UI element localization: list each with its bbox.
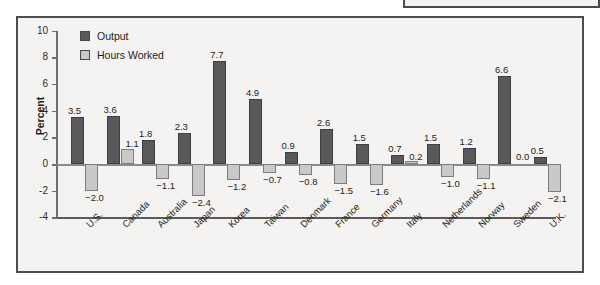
y-tick-label: -2 (20, 185, 48, 196)
bar-value-label: 4.9 (238, 87, 268, 98)
bar-value-label: −1.1 (151, 180, 181, 191)
bar-value-label: −1.6 (364, 186, 394, 197)
y-tick-label: -4 (20, 211, 48, 222)
bar-hours[interactable] (85, 164, 98, 191)
bar-hours[interactable] (299, 164, 312, 175)
bar-output[interactable] (463, 148, 476, 164)
bar-output[interactable] (534, 157, 547, 164)
bar-hours[interactable] (548, 164, 561, 192)
bar-value-label: 0.9 (273, 140, 303, 151)
bar-value-label: 3.6 (95, 104, 125, 115)
bar-output[interactable] (320, 129, 333, 164)
x-axis-label: Canada (120, 198, 151, 229)
bar-output[interactable] (71, 117, 84, 164)
bar-output[interactable] (427, 144, 440, 164)
x-axis-label: Germany (369, 194, 404, 229)
bar-hours[interactable] (263, 164, 276, 173)
x-axis-label: Norway (476, 199, 507, 230)
page-fragment-box (403, 0, 600, 8)
bar-output[interactable] (178, 133, 191, 164)
y-axis-line (56, 31, 58, 217)
bar-hours[interactable] (121, 149, 134, 164)
plot-area: Percent 1086420-2-4 OutputHours Worked 3… (18, 18, 582, 271)
legend-item-hours-worked[interactable]: Hours Worked (80, 47, 164, 63)
bar-value-label: −1.2 (222, 181, 252, 192)
bar-output[interactable] (356, 144, 369, 164)
x-axis-label: France (333, 201, 362, 230)
bar-value-label: −1.5 (329, 185, 359, 196)
x-axis-label: Taiwan (262, 201, 291, 230)
x-axis-label: U.S. (84, 209, 105, 230)
bar-value-label: 1.5 (344, 132, 374, 143)
chart-figure: Percent 1086420-2-4 OutputHours Worked 3… (16, 16, 584, 273)
y-tick-label: 4 (20, 105, 48, 116)
bar-value-label: 1.8 (131, 128, 161, 139)
y-tick-label: 0 (20, 158, 48, 169)
x-axis-label: Australia (155, 196, 189, 230)
y-tick-mark (52, 84, 57, 86)
legend-swatch-output (80, 31, 90, 41)
bar-value-label: −2.0 (80, 192, 110, 203)
chart-legend: OutputHours Worked (80, 28, 164, 66)
bar-value-label: 6.6 (487, 64, 517, 75)
y-tick-mark (52, 57, 57, 59)
x-axis-label: Denmark (298, 195, 333, 230)
bar-value-label: 1.2 (451, 136, 481, 147)
y-tick-mark (52, 164, 57, 166)
bar-value-label: 0.5 (522, 145, 552, 156)
y-tick-mark (52, 137, 57, 139)
y-tick-label: 2 (20, 131, 48, 142)
bar-hours[interactable] (192, 164, 205, 196)
y-tick-label: 8 (20, 51, 48, 62)
bar-value-label: 7.7 (202, 49, 232, 60)
bar-value-label: 1.5 (416, 132, 446, 143)
bar-output[interactable] (249, 99, 262, 164)
bar-value-label: 2.6 (309, 117, 339, 128)
y-tick-label: 6 (20, 78, 48, 89)
y-tick-mark (52, 31, 57, 33)
legend-item-output[interactable]: Output (80, 28, 164, 44)
bar-hours[interactable] (227, 164, 240, 180)
legend-swatch-hours-worked (80, 50, 90, 60)
x-axis-label: Sweden (511, 198, 543, 230)
bar-hours[interactable] (156, 164, 169, 179)
bar-hours[interactable] (441, 164, 454, 177)
bar-output[interactable] (142, 140, 155, 164)
bar-value-label: 3.5 (60, 105, 90, 116)
bar-hours[interactable] (477, 164, 490, 179)
y-tick-label: 10 (20, 25, 48, 36)
legend-label: Hours Worked (97, 49, 164, 61)
bar-value-label: 2.3 (166, 121, 196, 132)
bar-hours[interactable] (334, 164, 347, 184)
legend-label: Output (97, 30, 129, 42)
bar-value-label: −0.8 (293, 176, 323, 187)
bar-output[interactable] (213, 61, 226, 164)
y-tick-mark (52, 217, 57, 219)
bar-value-label: −0.7 (258, 174, 288, 185)
x-axis-label: Italy (404, 210, 424, 230)
bar-output[interactable] (285, 152, 298, 164)
x-axis-label: U.K. (547, 209, 568, 230)
y-tick-mark (52, 111, 57, 113)
y-tick-mark (52, 191, 57, 193)
bar-value-label: −1.0 (436, 178, 466, 189)
bar-value-label: −2.1 (542, 193, 572, 204)
bar-hours[interactable] (370, 164, 383, 185)
